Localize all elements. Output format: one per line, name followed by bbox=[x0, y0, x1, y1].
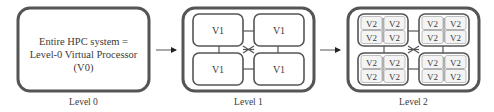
level-2-node-label: V2 bbox=[450, 58, 461, 68]
level-1-node-label: V1 bbox=[212, 64, 224, 75]
level-1-caption: Level 1 bbox=[234, 97, 263, 107]
level-2-node-label: V2 bbox=[389, 58, 400, 68]
level-2-caption: Level 2 bbox=[399, 97, 428, 107]
level-0-text-line-1: Entire HPC system = bbox=[39, 36, 128, 47]
level-2-node-label: V2 bbox=[427, 33, 438, 43]
level-0-group: Entire HPC system = Level-0 Virtual Proc… bbox=[18, 8, 149, 107]
level-1-node-label: V1 bbox=[273, 25, 285, 36]
level-0-caption: Level 0 bbox=[69, 97, 98, 107]
level-2-node-label: V2 bbox=[427, 19, 438, 29]
level-2-group: V2 V2 V2 V2 V2 V2 V2 V2 bbox=[348, 8, 479, 107]
level-2-node-label: V2 bbox=[427, 72, 438, 82]
level-1-node-label: V1 bbox=[273, 64, 285, 75]
level-1-node-label: V1 bbox=[212, 25, 224, 36]
level-2-node-label: V2 bbox=[427, 58, 438, 68]
level-2-node-label: V2 bbox=[450, 19, 461, 29]
level-2-node-label: V2 bbox=[389, 19, 400, 29]
hierarchy-diagram: Entire HPC system = Level-0 Virtual Proc… bbox=[0, 0, 494, 112]
level-1-group: V1 V1 V1 V1 Level 1 bbox=[183, 8, 314, 107]
level-0-text-line-3: (V0) bbox=[74, 62, 94, 74]
level-2-node-label: V2 bbox=[366, 33, 377, 43]
level-2-node-label: V2 bbox=[389, 33, 400, 43]
level-2-node-label: V2 bbox=[366, 72, 377, 82]
level-2-group-box: V2 V2 V2 V2 bbox=[358, 53, 408, 85]
level-2-node-label: V2 bbox=[450, 33, 461, 43]
level-2-group-box: V2 V2 V2 V2 bbox=[419, 53, 469, 85]
level-0-text-line-2: Level-0 Virtual Processor bbox=[30, 49, 138, 60]
level-2-node-label: V2 bbox=[366, 58, 377, 68]
level-2-node-label: V2 bbox=[450, 72, 461, 82]
level-2-node-label: V2 bbox=[366, 19, 377, 29]
level-2-node-label: V2 bbox=[389, 72, 400, 82]
level-2-group-box: V2 V2 V2 V2 bbox=[358, 14, 408, 46]
level-2-group-box: V2 V2 V2 V2 bbox=[419, 14, 469, 46]
